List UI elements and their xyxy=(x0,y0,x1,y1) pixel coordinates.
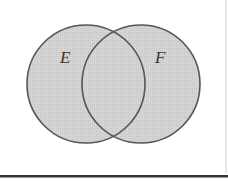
bottom-rule xyxy=(0,175,228,177)
set-f-label: F xyxy=(154,48,166,67)
venn-diagram: E F xyxy=(0,0,228,190)
set-e-label: E xyxy=(59,48,71,67)
bottom-rule-shadow xyxy=(0,177,228,178)
